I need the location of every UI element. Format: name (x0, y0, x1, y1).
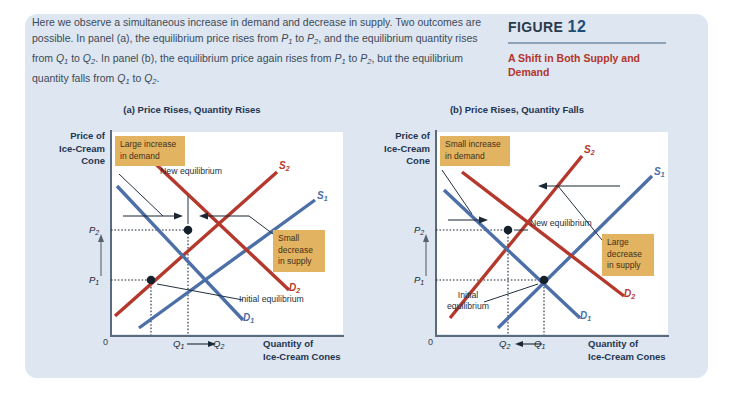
panel-a: (a) Price Rises, Quantity Rises Price of… (27, 104, 357, 372)
panel-b-curve-label-s1: S1 (654, 166, 665, 178)
panel-a-callout-demand: Large increase in demand (115, 136, 185, 166)
panel-b-callout-demand: Small increase in demand (440, 136, 510, 166)
panel-a-curve-label-d2: D2 (289, 282, 300, 294)
figure-title: A Shift in Both Supply and Demand (508, 51, 668, 79)
panel-b-curve-label-d2: D2 (624, 288, 635, 300)
panel-b-curve-label-d1: D1 (580, 310, 591, 322)
caption-line-3c: . In panel (b), the equilibrium price ag… (95, 52, 307, 64)
caption-q2: Q (83, 52, 91, 64)
caption-line-3b: to (68, 52, 83, 64)
panel-a-initial-equilibrium-leader (157, 284, 243, 300)
panel-a-label-initial-equilibrium: Initial equilibrium (239, 294, 325, 305)
panel-a-price-arrow-head (98, 234, 104, 242)
panel-b-new-equilibrium-dot (504, 226, 513, 235)
panel-b-initial-equilibrium-leader (484, 284, 538, 302)
caption-line-2c: , and the (318, 32, 359, 44)
caption-line-1: Here we observe a simultaneous increase … (32, 16, 415, 28)
panel-a-initial-equilibrium-dot (147, 276, 156, 285)
panel-a-quantity-arrow-head (208, 341, 216, 347)
panel-b-supply-callout-leader (558, 186, 602, 240)
panel-b-callout-supply: Large decrease in supply (602, 234, 654, 276)
panel-a-curve-label-s1: S1 (317, 190, 328, 202)
caption-line-2b: to (292, 32, 307, 44)
panel-b-curve-label-s2: S2 (584, 144, 595, 156)
figure-label: FIGURE (508, 19, 563, 35)
caption-line-4a: from (311, 52, 335, 64)
caption-q1: Q (56, 52, 64, 64)
caption-line-4e: . (156, 72, 159, 84)
panel-b-quantity-arrow-head (515, 341, 523, 347)
figure-label-row: FIGURE 12 (508, 18, 668, 36)
panel-a-curve-label-d1: D1 (243, 312, 254, 324)
figure-number: 12 (568, 18, 587, 35)
panel-b: (b) Price Rises, Quantity Falls Price of… (352, 104, 682, 372)
caption-line-4b: to (346, 52, 361, 64)
panel-b-supply-shift-arrow-head (538, 183, 547, 190)
panel-a-demand-shift-arrow-head (174, 213, 183, 220)
figure-caption: Here we observe a simultaneous increase … (32, 14, 492, 90)
panel-a-curve-label-s2: S2 (279, 160, 290, 172)
panel-a-supply-shift-arrow-head (199, 213, 208, 220)
panel-b-demand-shift-arrow-head (479, 217, 488, 224)
figure-header: FIGURE 12 A Shift in Both Supply and Dem… (508, 18, 668, 79)
panel-b-price-arrow-head (423, 234, 429, 242)
panel-b-initial-equilibrium-dot (540, 276, 549, 285)
figure-divider (508, 42, 666, 44)
panel-a-callout-supply: Small decrease in supply (273, 230, 325, 272)
caption-p2: P (307, 32, 314, 44)
panel-a-supply-callout-leader (249, 216, 273, 234)
panel-b-label-new-equilibrium: New equilibrium (530, 218, 592, 229)
panel-a-new-equilibrium-dot (184, 226, 193, 235)
panel-b-label-initial-equilibrium: Initial equilibrium (444, 290, 492, 312)
caption-p1b: P (335, 52, 342, 64)
caption-line-4d: to (130, 72, 145, 84)
panel-a-label-new-equilibrium: New equilibrium (159, 166, 223, 177)
